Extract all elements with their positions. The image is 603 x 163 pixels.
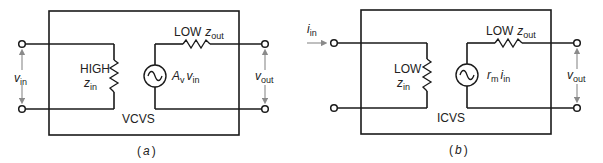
output-terminal-top: [262, 41, 269, 48]
zin-label: zin: [396, 76, 410, 92]
vin-label: vin: [14, 71, 27, 87]
zin-resistor-icon: [423, 59, 431, 91]
source-gain-label: Avvin: [171, 69, 200, 85]
output-terminal-top: [574, 40, 581, 47]
zin-level-label: HIGH: [80, 62, 110, 76]
panel-b-icvs: iin LOW zin rmiin LOWzout vout ICVS (b): [307, 10, 586, 157]
iin-label: iin: [307, 22, 317, 38]
icvs-label: ICVS: [437, 111, 465, 125]
zout-label: LOWzout: [174, 25, 224, 41]
output-terminal-bottom: [574, 105, 581, 112]
zout-resistor-icon: [183, 40, 210, 48]
source-gain-label: rmiin: [487, 68, 510, 84]
caption-b: (b): [449, 143, 468, 157]
zout-label: LOWzout: [486, 24, 536, 40]
input-terminal-top: [331, 40, 338, 47]
vout-label: vout: [255, 69, 274, 85]
zin-level-label: LOW: [394, 62, 422, 76]
zout-resistor-icon: [495, 39, 522, 47]
output-terminal-bottom: [262, 106, 269, 113]
vcvs-label: VCVS: [122, 112, 155, 126]
vout-label: vout: [567, 68, 586, 84]
zin-resistor-icon: [110, 60, 118, 92]
panel-a-vcvs: vin HIGH zin Avvin LOWzout vout VCVS (a): [14, 11, 274, 158]
zin-label: zin: [83, 76, 97, 92]
input-terminal-bottom: [331, 105, 338, 112]
input-terminal-bottom: [19, 106, 26, 113]
caption-a: (a): [137, 144, 156, 158]
input-terminal-top: [19, 41, 26, 48]
amplifier-models-diagram: vin HIGH zin Avvin LOWzout vout VCVS (a): [0, 0, 603, 163]
